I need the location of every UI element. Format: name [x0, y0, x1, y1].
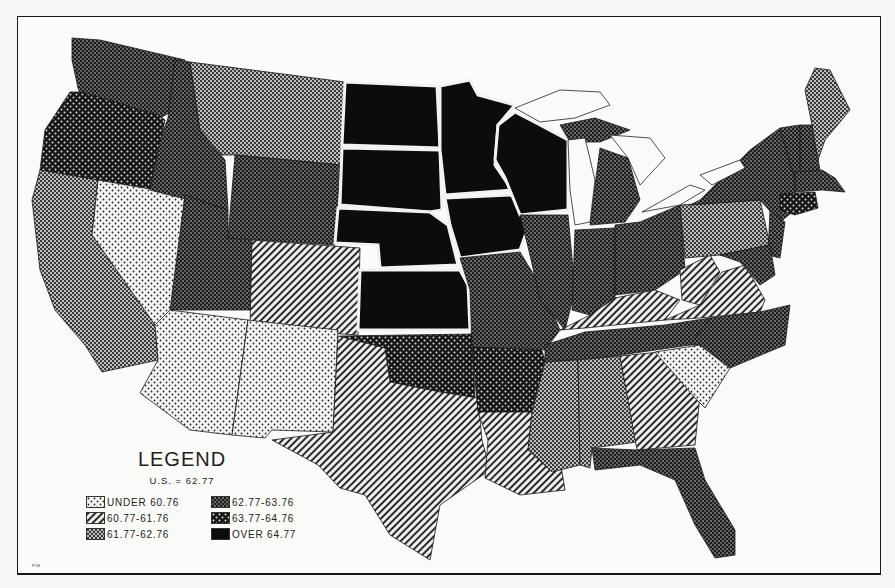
legend-item-c3: 61.77-62.76: [86, 528, 211, 540]
legend-item-over: OVER 64.77: [211, 528, 341, 540]
solid-black-swatch-icon: [211, 528, 230, 540]
lake-superior: [515, 90, 610, 122]
legend-label: 63.77-64.76: [232, 513, 294, 524]
light-dots-swatch-icon: [86, 496, 105, 508]
legend-label: 60.77-61.76: [107, 513, 169, 524]
diagonal-lines-swatch-icon: [86, 512, 105, 524]
legend-item-c2: 60.77-61.76: [86, 512, 211, 524]
legend: LEGEND U.S. = 62.77 UNDER 60.76 62.77-63…: [82, 448, 372, 540]
state-arizona: [140, 310, 248, 435]
legend-title: LEGEND: [92, 448, 272, 471]
legend-grid: UNDER 60.76 62.77-63.76 60.77-61.76 63.7…: [86, 496, 372, 540]
state-wyoming: [228, 155, 340, 245]
state-kansas: [358, 270, 470, 330]
state-south-dakota: [340, 148, 442, 212]
state-new-mexico: [232, 320, 338, 438]
dark-dots-swatch-icon: [211, 512, 230, 524]
legend-label: 61.77-62.76: [107, 529, 169, 540]
state-north-dakota: [342, 82, 440, 148]
map-credit: PCE: [32, 563, 40, 568]
state-massachusetts: [795, 170, 845, 192]
state-colorado: [250, 240, 360, 335]
legend-label: UNDER 60.76: [107, 497, 179, 508]
state-connecticut-ri: [780, 192, 818, 215]
legend-item-c5: 63.77-64.76: [211, 512, 341, 524]
legend-label: 62.77-63.76: [232, 497, 294, 508]
legend-item-c4: 62.77-63.76: [211, 496, 341, 508]
national-average-label: U.S. = 62.77: [82, 475, 282, 486]
state-florida: [592, 448, 735, 558]
lake-michigan: [568, 138, 595, 225]
state-arkansas: [472, 345, 545, 412]
legend-item-under: UNDER 60.76: [86, 496, 211, 508]
medium-checker-swatch-icon: [86, 528, 105, 540]
dark-checker-swatch-icon: [211, 496, 230, 508]
legend-label: OVER 64.77: [232, 529, 296, 540]
